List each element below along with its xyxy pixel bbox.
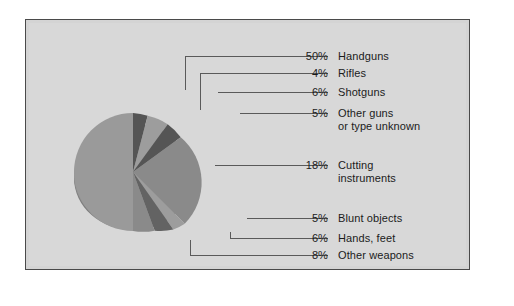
callout-other-weapons: 8% Other weapons <box>282 249 414 262</box>
callout-label-other-guns-line2: or type unknown <box>338 120 420 133</box>
callout-label-cutting-line1: Cutting <box>338 159 374 171</box>
callout-other-guns: 5% Other guns or type unknown <box>282 107 420 133</box>
callout-label-blunt-objects: Blunt objects <box>338 212 402 225</box>
callout-label-handguns: Handguns <box>338 50 389 63</box>
callout-cutting-instruments: 18% Cutting instruments <box>282 159 396 185</box>
callout-pct-rifles: 4% <box>282 67 328 80</box>
callout-label-other-guns: Other guns or type unknown <box>338 107 420 133</box>
callout-label-shotguns: Shotguns <box>338 86 385 99</box>
callout-pct-other-guns: 5% <box>282 107 328 120</box>
callout-label-cutting-line2: instruments <box>338 172 396 185</box>
callout-hands-feet: 6% Hands, feet <box>282 232 395 245</box>
callout-label-hands-feet: Hands, feet <box>338 232 395 245</box>
callout-label-other-weapons: Other weapons <box>338 249 414 262</box>
callout-rifles: 4% Rifles <box>282 67 366 80</box>
callout-handguns: 50% Handguns <box>282 50 389 63</box>
figure-root: 50% Handguns 4% Rifles 6% Shotguns 5% Ot… <box>0 0 514 306</box>
callout-label-rifles: Rifles <box>338 67 366 80</box>
callout-pct-shotguns: 6% <box>282 86 328 99</box>
callout-pct-handguns: 50% <box>282 50 328 63</box>
callout-pct-cutting-instruments: 18% <box>282 159 328 172</box>
callout-label-cutting-instruments: Cutting instruments <box>338 159 396 185</box>
callout-pct-other-weapons: 8% <box>282 249 328 262</box>
callout-label-other-guns-line1: Other guns <box>338 107 393 119</box>
callout-pct-hands-feet: 6% <box>282 232 328 245</box>
callout-labels: 50% Handguns 4% Rifles 6% Shotguns 5% Ot… <box>0 0 514 306</box>
callout-blunt-objects: 5% Blunt objects <box>282 212 402 225</box>
callout-pct-blunt-objects: 5% <box>282 212 328 225</box>
callout-shotguns: 6% Shotguns <box>282 86 385 99</box>
